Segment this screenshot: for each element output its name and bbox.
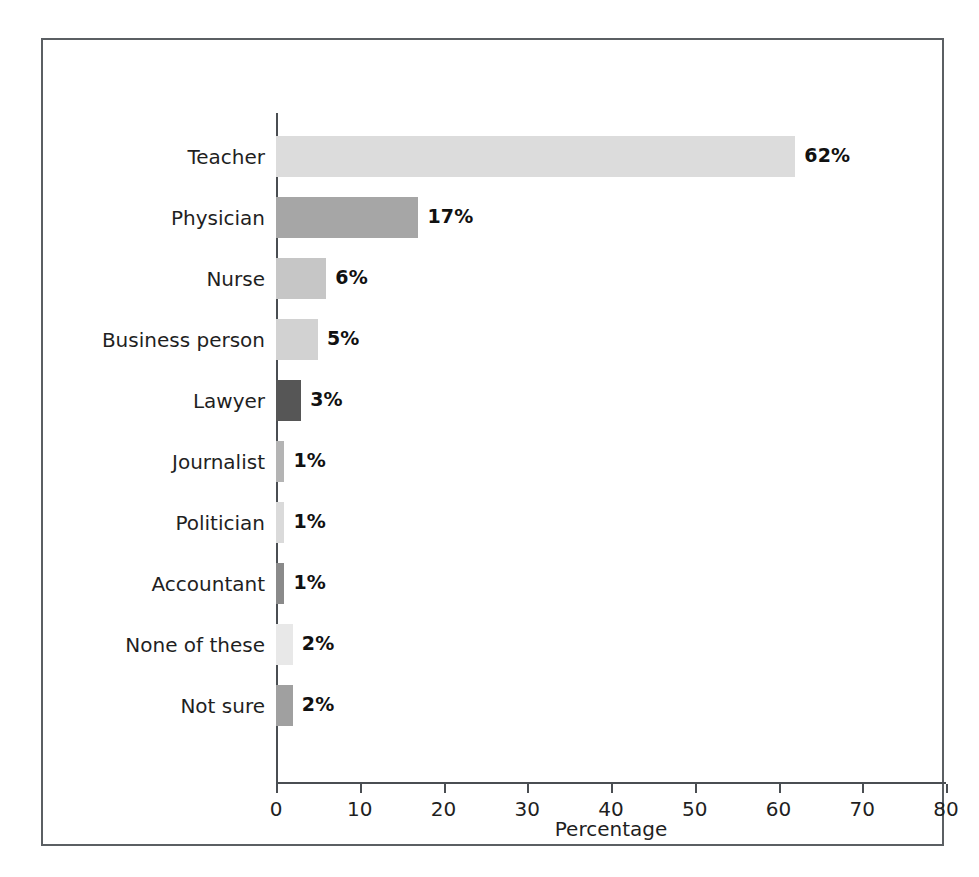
bar-row[interactable]: 3%: [276, 370, 946, 431]
plot-area: 62%17%6%5%3%1%1%1%2%2% 01020304050607080: [276, 113, 946, 782]
bar-value-label: 17%: [427, 205, 473, 227]
x-axis-title: Percentage: [276, 817, 946, 841]
y-tick-label-journalist: Journalist: [172, 450, 265, 474]
y-tick-label-politician: Politician: [175, 511, 265, 535]
bar-row[interactable]: 5%: [276, 309, 946, 370]
x-tick-mark: [946, 784, 948, 793]
y-tick-label-lawyer: Lawyer: [193, 389, 265, 413]
bar-value-label: 62%: [804, 144, 850, 166]
bar-value-label: 1%: [293, 571, 326, 593]
y-tick-label-not-sure: Not sure: [180, 694, 265, 718]
bar-row[interactable]: 2%: [276, 675, 946, 736]
bar-nurse[interactable]: [276, 258, 326, 299]
x-tick-mark: [695, 784, 697, 793]
bar-value-label: 3%: [310, 388, 343, 410]
y-tick-label-physician: Physician: [171, 206, 265, 230]
x-tick-mark: [360, 784, 362, 793]
bar-business-person[interactable]: [276, 319, 318, 360]
bar-politician[interactable]: [276, 502, 284, 543]
y-tick-label-teacher: Teacher: [187, 145, 265, 169]
x-tick-mark: [862, 784, 864, 793]
bar-lawyer[interactable]: [276, 380, 301, 421]
bar-value-label: 1%: [293, 449, 326, 471]
y-axis-category-labels: TeacherPhysicianNurseBusiness personLawy…: [43, 113, 265, 782]
bar-not-sure[interactable]: [276, 685, 293, 726]
x-tick-mark: [779, 784, 781, 793]
y-tick-label-none-of-these: None of these: [125, 633, 265, 657]
bar-row[interactable]: 17%: [276, 187, 946, 248]
bar-value-label: 5%: [327, 327, 360, 349]
figure-canvas: TeacherPhysicianNurseBusiness personLawy…: [0, 0, 979, 877]
x-tick-mark: [527, 784, 529, 793]
x-tick-mark: [611, 784, 613, 793]
bar-row[interactable]: 1%: [276, 431, 946, 492]
bar-physician[interactable]: [276, 197, 418, 238]
bar-row[interactable]: 1%: [276, 492, 946, 553]
bar-none-of-these[interactable]: [276, 624, 293, 665]
x-tick-mark: [276, 784, 278, 793]
bar-teacher[interactable]: [276, 136, 795, 177]
y-tick-label-accountant: Accountant: [151, 572, 265, 596]
bar-value-label: 2%: [302, 632, 335, 654]
y-tick-label-nurse: Nurse: [206, 267, 265, 291]
bar-row[interactable]: 62%: [276, 126, 946, 187]
bar-accountant[interactable]: [276, 563, 284, 604]
bar-value-label: 2%: [302, 693, 335, 715]
bar-value-label: 6%: [335, 266, 368, 288]
figure-frame-border: TeacherPhysicianNurseBusiness personLawy…: [41, 38, 944, 846]
bar-row[interactable]: 6%: [276, 248, 946, 309]
bar-row[interactable]: 1%: [276, 553, 946, 614]
bar-value-label: 1%: [293, 510, 326, 532]
y-tick-label-business-person: Business person: [102, 328, 265, 352]
bar-row[interactable]: 2%: [276, 614, 946, 675]
bar-journalist[interactable]: [276, 441, 284, 482]
x-tick-mark: [444, 784, 446, 793]
